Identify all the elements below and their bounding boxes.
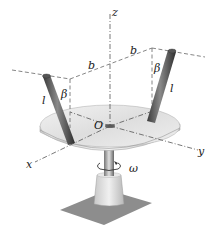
z-axis-label: z	[111, 6, 118, 19]
dim-line-b-left	[70, 48, 152, 79]
angle-beta-right: β	[153, 62, 160, 75]
y-axis-label: y	[197, 145, 205, 158]
dimension-b-right: b	[130, 44, 137, 57]
dimension-b-left: b	[88, 59, 95, 72]
pedestal-base	[94, 175, 124, 206]
rod-length-left: l	[42, 94, 46, 107]
shaft	[104, 150, 114, 176]
rotating-disk-figure: z x y O b b l l β β ω	[0, 0, 216, 234]
angular-velocity-label: ω	[129, 162, 138, 175]
angle-beta-left: β	[60, 88, 67, 101]
rod-length-right: l	[170, 82, 174, 95]
dim-line-right-outer	[152, 48, 205, 57]
dim-line-left-outer	[12, 70, 70, 79]
diagram-canvas: z x y O b b l l β β ω	[0, 0, 216, 234]
x-axis-label: x	[26, 158, 33, 171]
origin-label: O	[94, 119, 103, 132]
